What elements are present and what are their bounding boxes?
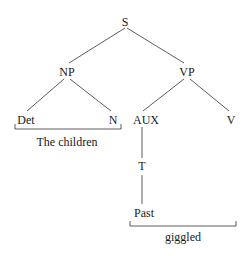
edge-vp-aux [143,79,184,111]
edge-s-vp [127,28,184,63]
tree-edges [0,0,249,256]
node-n: N [109,114,118,126]
node-aux: AUX [133,114,159,126]
node-np: NP [59,66,74,78]
node-past: Past [134,207,154,219]
edge-np-det [27,79,64,111]
bracket-label-np: The children [37,136,98,148]
edge-s-np [69,28,125,63]
node-det: Det [17,114,34,126]
node-s: S [122,16,129,28]
edge-vp-v [190,79,229,111]
bracket-vp [130,221,236,226]
node-v: V [227,114,236,126]
node-t: T [138,160,145,172]
bracket-label-vp: giggled [165,231,201,243]
edge-np-n [70,79,111,111]
node-vp: VP [179,66,194,78]
